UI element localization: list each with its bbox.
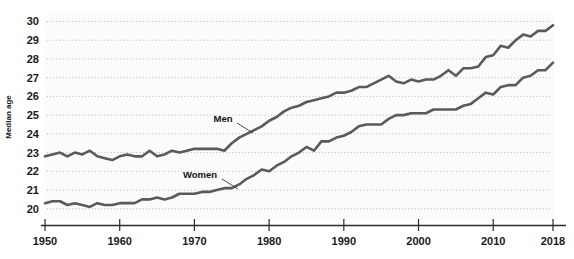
- x-tick-label-2000: 2000: [406, 235, 430, 247]
- x-tick-label-2018: 2018: [541, 235, 565, 247]
- y-tick-label-26: 26: [27, 90, 39, 102]
- x-axis-ticks-group: 19501960197019801990200020102018: [33, 219, 565, 247]
- y-tick-label-20: 20: [27, 203, 39, 215]
- x-tick-label-1980: 1980: [257, 235, 281, 247]
- y-tick-label-27: 27: [27, 72, 39, 84]
- chart-figure: 2021222324252627282930 Median age Men Wo…: [0, 0, 574, 259]
- y-tick-label-29: 29: [27, 34, 39, 46]
- x-tick-label-1970: 1970: [182, 235, 206, 247]
- y-axis-title: Median age: [4, 95, 13, 139]
- median-age-line-chart: 2021222324252627282930 Median age Men Wo…: [0, 0, 574, 259]
- y-tick-label-24: 24: [27, 128, 40, 140]
- x-tick-label-2010: 2010: [481, 235, 505, 247]
- x-tick-label-1960: 1960: [107, 235, 131, 247]
- y-tick-label-28: 28: [27, 53, 39, 65]
- series-label-women: Women: [183, 169, 217, 180]
- y-axis-tick-labels: 2021222324252627282930: [27, 15, 40, 214]
- series-label-men: Men: [214, 113, 233, 124]
- y-tick-label-23: 23: [27, 147, 39, 159]
- y-tick-label-25: 25: [27, 109, 39, 121]
- x-tick-label-1990: 1990: [332, 235, 356, 247]
- y-tick-label-30: 30: [27, 15, 39, 27]
- y-tick-label-21: 21: [27, 184, 39, 196]
- plot-area-background: [45, 14, 553, 220]
- y-tick-label-22: 22: [27, 165, 39, 177]
- x-tick-label-1950: 1950: [33, 235, 57, 247]
